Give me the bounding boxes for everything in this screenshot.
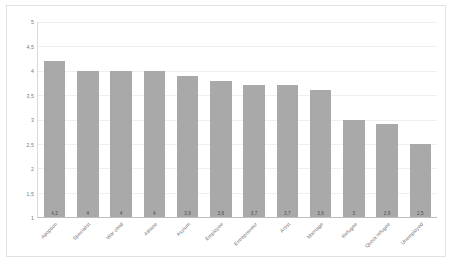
x-label-slot: Quota refugee — [370, 219, 403, 261]
x-axis-category-label: Athlete — [142, 221, 158, 237]
bar[interactable]: 3,8 — [210, 81, 231, 218]
bar-value-label: 3,6 — [317, 211, 324, 216]
bar-slot: 3,6 — [304, 22, 337, 217]
x-axis-category-label: Adoption — [39, 221, 58, 240]
y-axis-tick-label: 2,5 — [26, 142, 34, 148]
chart-frame: 54,543,532,521,51 4,24443,93,83,73,73,63… — [6, 5, 446, 257]
bar[interactable]: 4 — [110, 71, 131, 217]
bar-value-label: 3,9 — [184, 211, 191, 216]
x-label-slot: Athlete — [137, 219, 170, 261]
bar-value-label: 4 — [153, 211, 156, 216]
plot-area: 54,543,532,521,51 4,24443,93,83,73,73,63… — [37, 22, 437, 218]
y-axis-tick-label: 3,5 — [26, 93, 34, 99]
x-axis-category-label: Marriage — [306, 221, 325, 240]
bar-slot: 2,9 — [371, 22, 404, 217]
x-label-slot: Entrepreneur — [237, 219, 270, 261]
x-label-slot: Artist — [270, 219, 303, 261]
x-axis-labels: AdoptionSpecialistWar childAthleteAsylum… — [37, 219, 437, 261]
x-axis-category-label: Entrepreneur — [232, 221, 258, 247]
y-axis-tick-label: 5 — [31, 19, 34, 25]
y-axis-tick-label: 1,5 — [26, 191, 34, 197]
bar-value-label: 4 — [120, 211, 123, 216]
bar-value-label: 3,7 — [251, 211, 258, 216]
y-axis-tick-label: 4 — [31, 68, 34, 74]
x-label-slot: Unemployed — [404, 219, 437, 261]
gridline: 1 — [38, 217, 437, 218]
bar-value-label: 3 — [353, 211, 356, 216]
bar-slot: 4 — [105, 22, 138, 217]
bar[interactable]: 4 — [144, 71, 165, 217]
bar[interactable]: 2,9 — [376, 124, 397, 217]
y-axis-tick-label: 3 — [31, 117, 34, 123]
bar[interactable]: 3 — [343, 120, 364, 218]
bar[interactable]: 3,7 — [243, 85, 264, 217]
x-label-slot: Specialist — [70, 219, 103, 261]
bar-slot: 3,7 — [271, 22, 304, 217]
x-label-slot: Employee — [204, 219, 237, 261]
x-label-slot: Refugee — [337, 219, 370, 261]
bar-slot: 3 — [337, 22, 370, 217]
bar-slot: 3,7 — [238, 22, 271, 217]
bar-slot: 2,5 — [404, 22, 437, 217]
x-label-slot: War child — [104, 219, 137, 261]
bar-series: 4,24443,93,83,73,73,632,92,5 — [38, 22, 437, 217]
y-axis-tick-label: 4,5 — [26, 44, 34, 50]
x-label-slot: Marriage — [304, 219, 337, 261]
x-axis-category-label: Refugee — [340, 221, 358, 239]
bar-slot: 4,2 — [38, 22, 71, 217]
x-axis-category-label: Employee — [204, 221, 225, 242]
bar-slot: 3,9 — [171, 22, 204, 217]
bar-value-label: 2,9 — [384, 211, 391, 216]
bar-slot: 4 — [138, 22, 171, 217]
bar-value-label: 4,2 — [51, 211, 58, 216]
bar-value-label: 4 — [87, 211, 90, 216]
bar[interactable]: 3,7 — [277, 85, 298, 217]
x-axis-category-label: Unemployed — [400, 221, 425, 246]
bar[interactable]: 4,2 — [44, 61, 65, 217]
bar-slot: 3,8 — [204, 22, 237, 217]
y-axis-tick-label: 2 — [31, 166, 34, 172]
chart-screenshot: 54,543,532,521,51 4,24443,93,83,73,73,63… — [0, 0, 460, 267]
bar-value-label: 3,8 — [218, 211, 225, 216]
bar[interactable]: 2,5 — [410, 144, 431, 217]
x-label-slot: Asylum — [170, 219, 203, 261]
x-axis-category-label: Artist — [278, 221, 291, 234]
y-axis-tick-label: 1 — [31, 215, 34, 221]
x-axis-category-label: Asylum — [175, 221, 191, 237]
bar[interactable]: 3,9 — [177, 76, 198, 217]
bar-slot: 4 — [71, 22, 104, 217]
x-axis-category-label: Specialist — [71, 221, 91, 241]
bar-value-label: 2,5 — [417, 211, 424, 216]
bar[interactable]: 3,6 — [310, 90, 331, 217]
bar[interactable]: 4 — [77, 71, 98, 217]
x-axis-category-label: War child — [105, 221, 124, 240]
bar-value-label: 3,7 — [284, 211, 291, 216]
x-label-slot: Adoption — [37, 219, 70, 261]
